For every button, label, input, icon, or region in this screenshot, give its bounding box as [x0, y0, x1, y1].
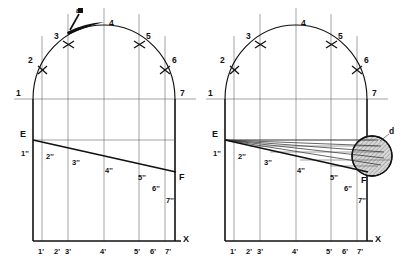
left-base-label-1: 1' — [38, 247, 44, 256]
right-base-label-1: 1' — [230, 247, 236, 256]
arc-tick-3 — [255, 41, 266, 48]
left-base-label-4: 4' — [100, 247, 106, 256]
left-point-F: F — [179, 172, 185, 182]
left-dev-label-7: 7'' — [166, 196, 174, 205]
left-arc-label-7: 7 — [180, 88, 185, 98]
left-panel: 1 2 3 4 5 6 7 E F X a 1'' 2'' 3'' 4'' 5'… — [14, 6, 196, 256]
left-dev-label-5: 5'' — [138, 173, 146, 182]
diagram-canvas: 1 2 3 4 5 6 7 E F X a 1'' 2'' 3'' 4'' 5'… — [0, 0, 403, 276]
arc-tick-2 — [230, 66, 239, 74]
arc-tick-3 — [63, 41, 74, 48]
right-dev-label-6: 6'' — [344, 184, 352, 193]
right-arc-label-5: 5 — [338, 31, 343, 41]
left-dev-label-1: 1'' — [21, 149, 29, 158]
left-point-E: E — [20, 129, 26, 139]
right-arc-label-3: 3 — [246, 31, 251, 41]
left-dev-label-2: 2'' — [46, 152, 54, 161]
left-arc-label-1: 1 — [16, 88, 21, 98]
right-panel: 1 2 3 4 5 6 7 E F X d 1'' 2'' 3'' 4'' 5'… — [206, 8, 394, 256]
left-base-label-5: 5' — [134, 247, 140, 256]
right-arc-label-2: 2 — [220, 55, 225, 65]
right-axis-X: X — [375, 234, 381, 244]
right-base-label-6: 6' — [342, 247, 348, 256]
left-arc-label-6: 6 — [172, 55, 177, 65]
right-dev-label-2: 2'' — [238, 152, 246, 161]
right-point-E: E — [212, 129, 218, 139]
left-arc-label-5: 5 — [146, 31, 151, 41]
right-projector-lines — [234, 8, 357, 241]
left-projector-lines — [42, 8, 165, 241]
right-base-label-4: 4' — [292, 247, 298, 256]
right-dev-label-5: 5'' — [330, 173, 338, 182]
left-arc-label-4: 4 — [109, 18, 114, 28]
right-arc-label-6: 6 — [364, 55, 369, 65]
right-arc-label-4: 4 — [301, 18, 306, 28]
technical-drawing: 1 2 3 4 5 6 7 E F X a 1'' 2'' 3'' 4'' 5'… — [0, 0, 403, 276]
left-arc-label-3: 3 — [54, 31, 59, 41]
right-dev-label-7: 7'' — [358, 196, 366, 205]
right-dev-label-4: 4'' — [297, 166, 305, 175]
left-base-label-6: 6' — [150, 247, 156, 256]
arc-tick-5 — [326, 41, 337, 48]
right-point-F: F — [361, 175, 367, 185]
right-base-label-7: 7' — [357, 247, 363, 256]
right-base-label-3: 3' — [257, 247, 263, 256]
left-dev-label-4: 4'' — [105, 166, 113, 175]
right-dev-label-1: 1'' — [213, 149, 221, 158]
right-dev-label-3: 3'' — [264, 158, 272, 167]
right-annotation-label: d — [389, 126, 394, 136]
right-base-label-2: 2' — [246, 247, 252, 256]
left-arc-label-2: 2 — [28, 55, 33, 65]
arc-tick-2 — [38, 66, 47, 74]
left-dev-label-3: 3'' — [72, 158, 80, 167]
right-base-label-5: 5' — [326, 247, 332, 256]
left-base-label-2: 2' — [54, 247, 60, 256]
left-base-label-7: 7' — [165, 247, 171, 256]
right-arc-label-7: 7 — [372, 88, 377, 98]
left-dev-label-6: 6'' — [152, 184, 160, 193]
left-base-label-3: 3' — [65, 247, 71, 256]
left-axis-X: X — [183, 234, 189, 244]
arc-tick-5 — [134, 41, 145, 48]
right-arc-label-1: 1 — [208, 88, 213, 98]
